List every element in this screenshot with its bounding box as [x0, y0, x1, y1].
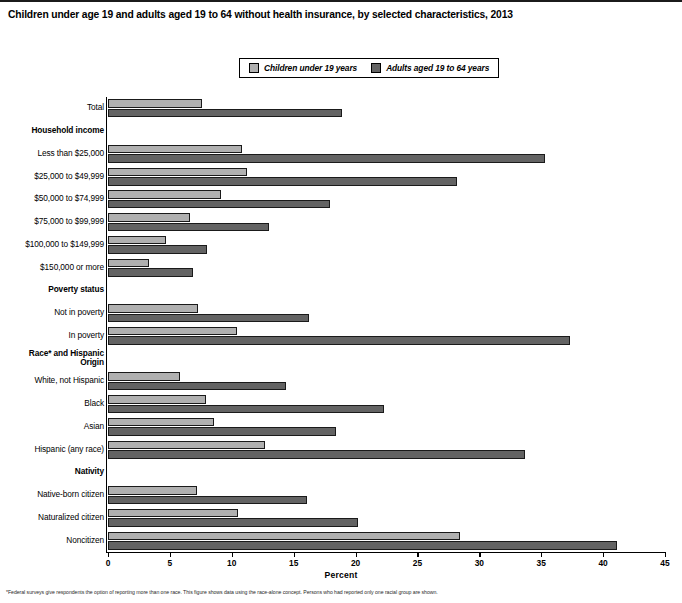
plot-area	[108, 97, 665, 552]
bar-adults	[108, 405, 384, 414]
chart-title: Children under age 19 and adults aged 19…	[8, 8, 672, 21]
legend-item-adults: Adults aged 19 to 64 years	[371, 63, 489, 73]
bar-children	[108, 532, 460, 541]
bar-adults	[108, 450, 525, 459]
bar-children	[108, 395, 206, 404]
bar-children	[108, 99, 202, 108]
chart-figure: Children under age 19 and adults aged 19…	[0, 0, 682, 603]
category-label: Not in poverty	[0, 308, 104, 318]
x-tick-label: 20	[351, 558, 360, 568]
category-labels: TotalHousehold incomeLess than $25,000$2…	[0, 97, 104, 552]
x-tick-label: 15	[289, 558, 298, 568]
chart-legend: Children under 19 years Adults aged 19 t…	[239, 58, 499, 78]
footnote: *Federal surveys give respondents the op…	[6, 589, 678, 596]
top-rule	[0, 0, 682, 2]
bar-children	[108, 213, 190, 222]
category-label: $75,000 to $99,999	[0, 217, 104, 227]
bar-children	[108, 145, 242, 154]
x-tick-mark	[479, 552, 480, 557]
bar-children	[108, 509, 238, 518]
category-label: Asian	[0, 422, 104, 432]
x-axis-title: Percent	[0, 570, 682, 580]
bar-children	[108, 236, 166, 245]
x-tick-mark	[294, 552, 295, 557]
bar-adults	[108, 314, 309, 323]
category-label: Black	[0, 399, 104, 409]
bar-adults	[108, 518, 358, 527]
bar-adults	[108, 109, 342, 118]
category-label: In poverty	[0, 331, 104, 341]
category-label: $100,000 to $149,999	[0, 240, 104, 250]
category-label: Less than $25,000	[0, 149, 104, 159]
x-tick-label: 0	[106, 558, 111, 568]
x-tick-mark	[232, 552, 233, 557]
legend-item-children: Children under 19 years	[249, 63, 357, 73]
category-label: $150,000 or more	[0, 263, 104, 273]
legend-label-adults: Adults aged 19 to 64 years	[386, 63, 489, 73]
category-label: White, not Hispanic	[0, 376, 104, 386]
bar-children	[108, 441, 265, 450]
bar-children	[108, 327, 237, 336]
bar-adults	[108, 223, 269, 232]
bar-adults	[108, 200, 330, 209]
x-tick-mark	[541, 552, 542, 557]
bar-adults	[108, 336, 570, 345]
bar-adults	[108, 177, 457, 186]
bar-adults	[108, 427, 336, 436]
bar-adults	[108, 268, 193, 277]
title-container: Children under age 19 and adults aged 19…	[8, 8, 672, 21]
legend-label-children: Children under 19 years	[264, 63, 357, 73]
x-tick-mark	[170, 552, 171, 557]
section-header-label: Nativity	[0, 467, 104, 477]
bar-children	[108, 168, 247, 177]
bar-children	[108, 418, 214, 427]
x-tick-mark	[417, 552, 418, 557]
x-tick-label: 45	[660, 558, 669, 568]
x-tick-label: 25	[413, 558, 422, 568]
bar-children	[108, 372, 180, 381]
bar-children	[108, 190, 221, 199]
section-header-label: Household income	[0, 126, 104, 136]
x-tick-label: 40	[598, 558, 607, 568]
category-label: Naturalized citizen	[0, 513, 104, 523]
bar-children	[108, 486, 197, 495]
bar-adults	[108, 245, 207, 254]
legend-swatch-children-icon	[249, 63, 259, 73]
x-tick-mark	[603, 552, 604, 557]
bar-adults	[108, 541, 617, 550]
bar-children	[108, 304, 198, 313]
bar-adults	[108, 154, 545, 163]
x-tick-label: 5	[168, 558, 173, 568]
bar-adults	[108, 496, 307, 505]
section-header-label: Race* and HispanicOrigin	[0, 349, 104, 368]
y-axis-line	[106, 97, 107, 552]
category-label: Noncitizen	[0, 536, 104, 546]
x-tick-label: 10	[227, 558, 236, 568]
x-tick-mark	[108, 552, 109, 557]
legend-swatch-adults-icon	[371, 63, 381, 73]
bar-children	[108, 259, 149, 268]
x-tick-label: 35	[537, 558, 546, 568]
x-tick-mark	[356, 552, 357, 557]
category-label: Total	[0, 103, 104, 113]
category-label: Native-born citizen	[0, 490, 104, 500]
category-label: Hispanic (any race)	[0, 445, 104, 455]
x-tick-label: 30	[475, 558, 484, 568]
x-tick-mark	[665, 552, 666, 557]
bar-adults	[108, 382, 286, 391]
section-header-label: Poverty status	[0, 285, 104, 295]
category-label: $50,000 to $74,999	[0, 194, 104, 204]
category-label: $25,000 to $49,999	[0, 172, 104, 182]
